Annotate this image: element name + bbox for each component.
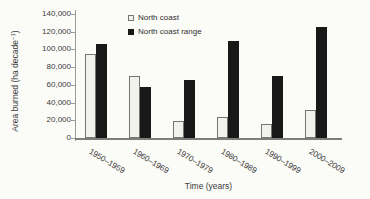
y-tick-label-0: 0 (24, 133, 71, 143)
y-tick-80-000 (71, 67, 75, 68)
bar-north-coast-1990-1999 (261, 124, 272, 138)
bar-north-coast-range-2000-2009 (316, 27, 327, 138)
x-category-label-1970-1979: 1970–1979 (175, 147, 214, 175)
y-tick-0 (71, 138, 75, 139)
y-tick-20-000 (71, 120, 75, 121)
bar-north-coast-1970-1979 (173, 121, 184, 138)
x-category-label-2000-2009: 2000–2009 (307, 147, 346, 175)
y-tick-140-000 (71, 14, 75, 15)
y-tick-60-000 (71, 85, 75, 86)
legend-label-north-coast-range: North coast range (138, 27, 202, 36)
x-category-label-1980-1989: 1980–1989 (219, 147, 258, 175)
x-category-label-1960-1969: 1960–1969 (131, 147, 170, 175)
y-tick-label-140-000: 140,000 (24, 9, 71, 19)
y-tick-label-60-000: 60,000 (24, 80, 71, 90)
bar-north-coast-1980-1989 (217, 117, 228, 138)
bar-north-coast-range-1960-1969 (140, 87, 151, 138)
legend: North coast North coast range (128, 13, 202, 36)
y-tick-120-000 (71, 32, 75, 33)
bar-north-coast-range-1990-1999 (272, 76, 283, 138)
y-axis-title: Area burned (ha decade−1) (10, 30, 21, 131)
bar-north-coast-1960-1969 (129, 76, 140, 138)
legend-swatch-north-coast-range (128, 29, 134, 35)
x-category-label-1990-1999: 1990–1999 (263, 147, 302, 175)
bar-north-coast-range-1950-1959 (96, 44, 107, 138)
y-tick-40-000 (71, 103, 75, 104)
x-axis-title: Time (years) (75, 181, 342, 191)
bar-north-coast-range-1980-1989 (228, 41, 239, 138)
bar-north-coast-2000-2009 (305, 110, 316, 138)
legend-item-north-coast-range: North coast range (128, 27, 202, 36)
y-axis-title-superscript: −1 (10, 33, 16, 40)
y-axis-line (75, 10, 76, 141)
x-axis-line (75, 138, 342, 140)
y-tick-label-100-000: 100,000 (24, 44, 71, 54)
bar-chart-figure: 020,00040,00060,00080,000100,000120,0001… (0, 0, 370, 199)
bar-north-coast-range-1970-1979 (184, 80, 195, 138)
y-axis-title-suffix: ) (10, 30, 20, 33)
legend-item-north-coast: North coast (128, 13, 202, 22)
legend-label-north-coast: North coast (138, 13, 179, 22)
y-tick-100-000 (71, 49, 75, 50)
y-tick-label-80-000: 80,000 (24, 62, 71, 72)
y-tick-label-40-000: 40,000 (24, 98, 71, 108)
x-category-label-1950-1959: 1950–1959 (87, 147, 126, 175)
y-axis-title-text: Area burned (ha decade (10, 40, 20, 132)
y-tick-label-20-000: 20,000 (24, 115, 71, 125)
legend-swatch-north-coast (128, 15, 134, 21)
bar-north-coast-1950-1959 (85, 54, 96, 138)
y-tick-label-120-000: 120,000 (24, 27, 71, 37)
